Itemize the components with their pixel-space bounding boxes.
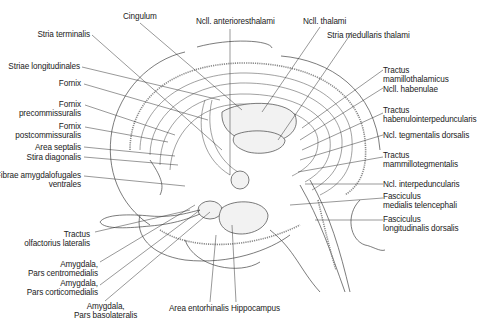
label-tractus-habenulointerpeduncularis: Tractushabenulointerpeduncularis (383, 106, 477, 124)
hippocampus-shape (219, 202, 268, 234)
label-fibrae-amygdalofugales-ventrales: Fibrae amygdalofugalesventrales (0, 171, 81, 189)
mammillary-body (231, 171, 249, 189)
label-ncl-anteriores-thalami: Ncll. anterioresthalami (196, 17, 275, 26)
label-cingulum: Cingulum (123, 12, 157, 21)
label-fasciculus-longitudinalis-dorsalis: Fasciculuslongitudinalis dorsalis (383, 215, 459, 233)
label-stria-terminalis: Stria terminalis (37, 30, 90, 39)
label-stira-diagonalis: Stira diagonalis (27, 153, 81, 162)
label-ncl-tegmentalis-dorsalis: Ncl. tegmentalis dorsalis (383, 131, 469, 140)
label-striae-longitudinales: Striae longitudinales (8, 62, 80, 71)
label-area-septalis: Area septalis (35, 143, 81, 152)
label-area-entorhinalis: Area entorhinalis (169, 304, 229, 313)
label-amygdala-corticomedialis: Amygdala,Pars corticomedialis (27, 279, 98, 297)
label-stria-medullaris-thalami: Stria medullaris thalami (327, 31, 410, 40)
brainstem-left (300, 185, 345, 292)
label-tractus-mamillothalamicus: Tractusmamillothalamicus (383, 66, 449, 84)
label-amygdala-centromedialis: Amygdala,Pars centromedialis (28, 260, 98, 278)
label-ncl-interpeduncularis: Ncl. interpeduncularis (383, 180, 460, 189)
amygdala-shape (198, 201, 222, 219)
label-fornix: Fornix (59, 79, 81, 88)
label-fasciculus-medialis-telencephali: Fasciculusmedialis telencephali (383, 192, 457, 210)
label-ncl-thalami: Ncll. thalami (303, 17, 346, 26)
label-tractus-mammillotegmentalis: Tractusmammillotegmentalis (383, 151, 458, 169)
label-tractus-olfactorius-lateralis: Tractusolfactorius lateralis (24, 230, 90, 248)
label-fornix-postcommissuralis: Fornixpostcommissuralis (15, 122, 81, 140)
label-amygdala-basolateralis: Amygdala,Pars basolateralis (74, 302, 137, 320)
label-hippocampus: Hippocampus (231, 304, 280, 313)
label-ncl-habenulae: Ncll. habenulae (383, 85, 438, 94)
label-fornix-precommissuralis: Fornixprecommissuralis (19, 100, 81, 118)
